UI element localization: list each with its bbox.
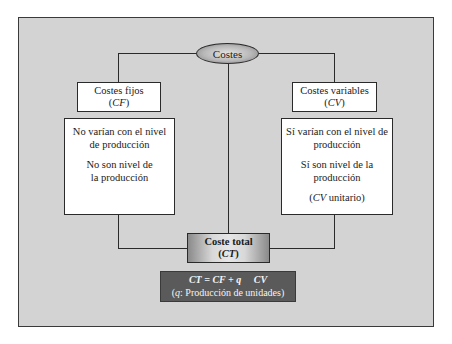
costs-root-node: Costes bbox=[196, 43, 259, 64]
fixed-costs-desc-2: No son nivel de la producción bbox=[65, 159, 174, 184]
costs-root-label: Costes bbox=[213, 48, 242, 60]
connector-root-right-v bbox=[334, 53, 335, 82]
connector-root-right-h bbox=[259, 53, 335, 54]
connector-left-down bbox=[118, 214, 119, 249]
total-cost-abbr: (CT) bbox=[218, 248, 238, 260]
fixed-costs-node: Costes fijos (CF) bbox=[77, 82, 161, 112]
connector-root-center-v bbox=[228, 64, 229, 233]
variable-costs-node: Costes variables (CV) bbox=[292, 82, 377, 112]
fixed-costs-description: No varían con el nivel de producción No … bbox=[64, 118, 175, 215]
connector-right-to-total bbox=[270, 248, 335, 249]
variable-costs-description: Sí varían con el nivel de producción Sí … bbox=[281, 118, 393, 215]
formula-legend: (q: Producción de unidades) bbox=[161, 287, 295, 300]
total-cost-node: Coste total (CT) bbox=[187, 233, 270, 263]
connector-root-left-v bbox=[118, 53, 119, 82]
connector-right-down bbox=[334, 214, 335, 249]
variable-costs-abbr: (CV) bbox=[293, 97, 376, 110]
total-cost-title: Coste total bbox=[204, 236, 252, 248]
variable-costs-note: (CV unitario) bbox=[282, 192, 392, 205]
fixed-costs-title: Costes fijos bbox=[78, 85, 160, 98]
connector-left-to-total bbox=[118, 248, 187, 249]
variable-costs-desc-2: Sí son nivel de la producción bbox=[282, 159, 392, 184]
fixed-costs-desc-1: No varían con el nivel de producción bbox=[65, 126, 174, 151]
connector-root-left-h bbox=[118, 53, 196, 54]
total-cost-formula: CT = CF + q CV (q: Producción de unidade… bbox=[160, 271, 296, 302]
variable-costs-desc-1: Sí varían con el nivel de producción bbox=[282, 126, 392, 151]
fixed-costs-abbr: (CF) bbox=[78, 97, 160, 110]
formula-equation: CT = CF + q CV bbox=[161, 274, 295, 287]
variable-costs-title: Costes variables bbox=[293, 85, 376, 98]
